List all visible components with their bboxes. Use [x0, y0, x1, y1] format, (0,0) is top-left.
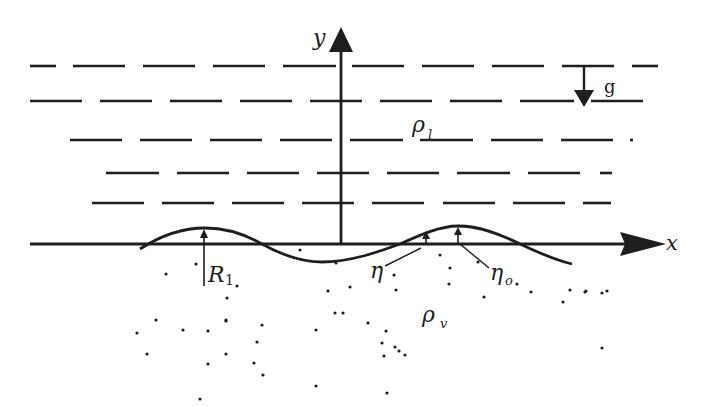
particle-dot — [198, 397, 201, 400]
particle-dot — [341, 311, 344, 314]
particle-dot — [476, 260, 479, 263]
x-axis-arrowhead-icon — [620, 232, 666, 256]
particle-dot — [261, 373, 264, 376]
particle-dot — [255, 340, 258, 343]
particle-dot — [515, 282, 518, 285]
particle-dot — [529, 290, 532, 293]
particle-dot — [392, 273, 395, 276]
r1-subscript: 1 — [225, 272, 234, 288]
x-axis-label: x — [666, 231, 678, 255]
particle-dot — [154, 318, 157, 321]
particle-dot — [380, 341, 383, 344]
particle-dot — [394, 288, 397, 291]
particle-dot — [397, 349, 400, 352]
particle-dot — [561, 300, 564, 303]
particle-dot — [224, 318, 227, 321]
particle-dot — [326, 289, 329, 292]
particle-dot — [403, 353, 406, 356]
rho-v-subscript: v — [440, 316, 448, 331]
particle-dot — [235, 284, 238, 287]
particle-dot — [181, 328, 184, 331]
gravity-label: g — [604, 76, 616, 97]
rho-v-symbol: ρ — [421, 302, 435, 327]
y-axis-label: y — [312, 25, 326, 50]
particle-dot — [482, 295, 485, 298]
y-axis-arrowhead-icon — [329, 27, 353, 52]
particle-dot — [194, 262, 197, 265]
particle-dot — [145, 352, 148, 355]
particle-dot — [224, 352, 227, 355]
particle-dot — [600, 346, 603, 349]
particle-dot — [298, 248, 301, 251]
r1-annotation: R 1 — [200, 229, 234, 288]
particle-dot — [260, 323, 263, 326]
gravity-arrow-icon — [574, 90, 594, 107]
particle-dot — [605, 289, 608, 292]
particle-dot — [447, 282, 450, 285]
y-axis: y — [312, 25, 353, 244]
eta-o-subscript: o — [505, 273, 513, 288]
x-axis: x — [30, 231, 678, 256]
eta-o-arrow-icon — [454, 227, 462, 235]
particle-dot — [206, 362, 209, 365]
particle-dot — [568, 288, 571, 291]
particle-dot — [584, 289, 587, 292]
particle-dot — [393, 345, 396, 348]
r1-symbol: R — [207, 262, 225, 287]
particle-dot — [438, 253, 441, 256]
particle-dot — [314, 328, 317, 331]
particle-dot — [366, 321, 369, 324]
particle-dot — [314, 384, 317, 387]
vapor-density-label: ρ v — [421, 302, 448, 331]
particle-dot — [252, 361, 255, 364]
rho-l-symbol: ρ — [411, 112, 425, 137]
rho-l-subscript: l — [428, 127, 432, 142]
particle-dot — [384, 329, 387, 332]
particle-dot — [385, 391, 388, 394]
eta-o-symbol: η — [490, 260, 503, 285]
particle-dot — [225, 296, 228, 299]
particle-dot — [382, 354, 385, 357]
eta-annotation: η — [370, 231, 430, 283]
eta-symbol: η — [370, 258, 383, 283]
interface-diagram: y x g ρ l ρ v R 1 η η — [0, 0, 703, 407]
particle-dot — [164, 272, 167, 275]
r1-arrow-icon — [200, 229, 208, 238]
liquid-layer-dashes — [30, 66, 658, 203]
particle-dot — [448, 266, 451, 269]
liquid-density-label: ρ l — [411, 112, 432, 142]
particle-dot — [206, 329, 209, 332]
particle-dot — [135, 331, 138, 334]
particle-dot — [600, 291, 603, 294]
particle-dot — [348, 285, 351, 288]
particle-dot — [333, 311, 336, 314]
